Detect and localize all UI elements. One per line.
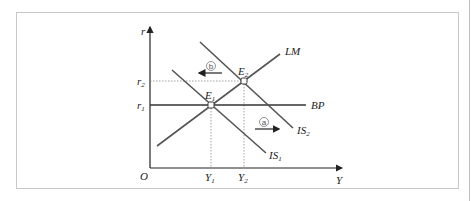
x-axis-label: Y (336, 174, 344, 186)
e2-label: E2 (237, 65, 249, 79)
r2-tick-label: r2 (137, 75, 145, 89)
marker-b-label: b (209, 62, 214, 71)
r1-tick-label: r1 (137, 99, 145, 113)
y1-tick-label: Y1 (205, 171, 215, 185)
bp-label: BP (311, 99, 325, 111)
marker-a-label: a (262, 118, 267, 127)
y2-tick-label: Y2 (238, 171, 248, 185)
e1-label: E1 (204, 89, 215, 103)
is1-label: IS1 (268, 149, 282, 163)
is-lm-bp-diagram: a b r Y O r2 r1 Y1 Y2 E1 E2 LM BP IS1 IS… (0, 0, 474, 201)
lm-label: LM (284, 45, 301, 57)
y-axis-label: r (141, 25, 146, 37)
origin-label: O (140, 170, 148, 182)
is2-label: IS2 (296, 124, 310, 138)
is1-curve (172, 70, 266, 153)
